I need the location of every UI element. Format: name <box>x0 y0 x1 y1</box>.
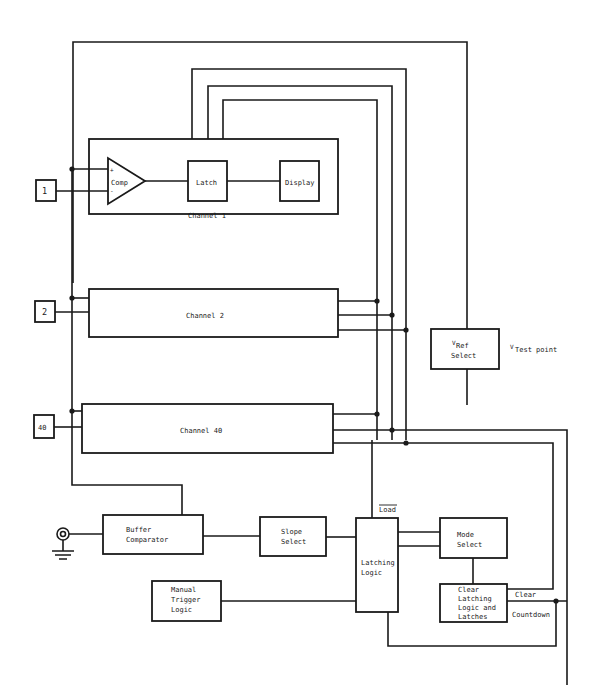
ground-icon <box>52 540 74 559</box>
wire-bus-a <box>192 69 406 440</box>
vtest-label: Test point <box>515 346 557 354</box>
block-diagram: 1 + - Comp Latch Display Channel 1 2 Cha… <box>0 0 590 685</box>
bnc-inner <box>61 532 66 537</box>
clear-box-line2: Latching <box>458 595 492 603</box>
channel-1-label: Channel 1 <box>188 212 226 220</box>
display-label: Display <box>285 179 315 187</box>
slope-select-label: Select <box>281 538 306 546</box>
clear-box-line1: Clear <box>458 586 479 594</box>
clear-box-line4: Latches <box>458 613 488 621</box>
bnc-connector-icon <box>57 528 69 540</box>
junction-dot <box>374 411 379 416</box>
load-label: Load <box>379 506 396 514</box>
trigger-label: Trigger <box>171 596 201 604</box>
wire-left-trunk <box>72 168 182 518</box>
clear-signal-label: Clear <box>515 591 536 599</box>
input-2-label: 2 <box>42 307 47 317</box>
junction-dot <box>374 298 379 303</box>
junction-dot <box>69 166 74 171</box>
latching-label: Latching <box>361 559 395 567</box>
junction-dot <box>389 427 394 432</box>
mode-label: Mode <box>457 531 474 539</box>
slope-select-box <box>260 517 326 556</box>
channel-2-label: Channel 2 <box>186 312 224 320</box>
countdown-signal-label: Countdown <box>512 611 550 619</box>
manual-label: Manual <box>171 586 196 594</box>
vref-sub: Ref <box>456 342 469 350</box>
wire-vref-bus <box>73 42 467 405</box>
comp-minus: - <box>110 187 114 194</box>
buffer-comparator-box <box>103 515 203 554</box>
latch-label: Latch <box>196 179 217 187</box>
junction-dot <box>403 327 408 332</box>
junction-dot <box>389 312 394 317</box>
trigger-logic-label: Logic <box>171 606 192 614</box>
logic-label: Logic <box>361 569 382 577</box>
junction-dot <box>69 295 74 300</box>
buffer-label: Buffer <box>126 526 151 534</box>
channel-40-label: Channel 40 <box>180 427 222 435</box>
comparator-label: Comparator <box>126 536 168 544</box>
mode-select-label: Select <box>457 541 482 549</box>
input-1-label: 1 <box>42 186 47 196</box>
vtest-v: V <box>510 343 514 350</box>
vref-select-label: Select <box>451 352 476 360</box>
slope-label: Slope <box>281 528 302 536</box>
comp-label: Comp <box>111 179 128 187</box>
junction-dot <box>553 598 558 603</box>
junction-dot <box>403 440 408 445</box>
input-40-label: 40 <box>38 424 46 432</box>
clear-box-line3: Logic and <box>458 604 496 612</box>
comp-plus: + <box>110 166 114 173</box>
junction-dot <box>69 408 74 413</box>
